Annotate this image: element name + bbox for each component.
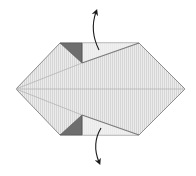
origami-diagram bbox=[0, 0, 196, 176]
